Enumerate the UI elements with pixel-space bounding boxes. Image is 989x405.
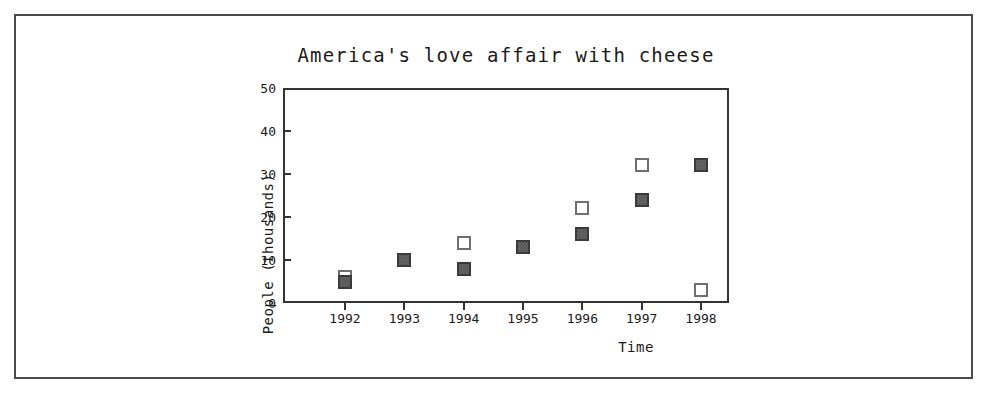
y-tick-label: 30 — [260, 167, 276, 182]
data-point-filled-square — [694, 158, 708, 172]
x-tick-label: 1994 — [448, 311, 479, 326]
data-point-filled-square — [338, 275, 352, 289]
x-tick-mark — [403, 303, 405, 310]
x-tick-mark — [522, 303, 524, 310]
x-tick-mark — [463, 303, 465, 310]
x-axis-label: Time — [566, 339, 706, 355]
y-tick-mark — [283, 173, 291, 175]
x-tick-label: 1997 — [626, 311, 657, 326]
x-tick-label: 1996 — [567, 311, 598, 326]
y-tick-mark — [283, 259, 291, 261]
data-point-filled-square — [397, 253, 411, 267]
data-point-filled-square — [457, 262, 471, 276]
y-tick-label: 0 — [268, 296, 276, 311]
chart-figure: America's love affair with cheese People… — [0, 0, 989, 405]
x-tick-mark — [641, 303, 643, 310]
x-tick-label: 1998 — [685, 311, 716, 326]
y-tick-label: 40 — [260, 124, 276, 139]
x-tick-mark — [581, 303, 583, 310]
x-tick-mark — [700, 303, 702, 310]
data-point-open-square — [457, 236, 471, 250]
data-point-open-square — [575, 201, 589, 215]
y-tick-mark — [283, 216, 291, 218]
data-point-open-square — [635, 158, 649, 172]
x-tick-label: 1993 — [389, 311, 420, 326]
x-tick-label: 1995 — [507, 311, 538, 326]
x-tick-mark — [344, 303, 346, 310]
data-point-filled-square — [635, 193, 649, 207]
chart-title: America's love affair with cheese — [283, 44, 729, 66]
data-point-open-square — [694, 283, 708, 297]
y-axis-tick-labels: 01020304050 — [243, 88, 276, 303]
y-tick-mark — [283, 130, 291, 132]
y-tick-label: 50 — [260, 81, 276, 96]
y-tick-label: 10 — [260, 253, 276, 268]
data-point-filled-square — [575, 227, 589, 241]
y-tick-label: 20 — [260, 210, 276, 225]
x-tick-label: 1992 — [329, 311, 360, 326]
data-point-filled-square — [516, 240, 530, 254]
